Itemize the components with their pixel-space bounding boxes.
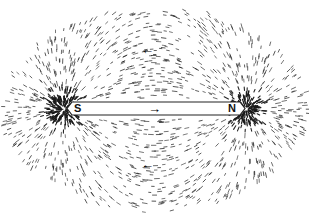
south-pole-label: S bbox=[74, 101, 81, 116]
north-pole-label: N bbox=[228, 101, 236, 116]
magnet-direction-arrow-icon: → bbox=[148, 104, 161, 114]
field-arrow-top-icon: ← bbox=[141, 45, 154, 55]
field-arrow-bottom-icon: ← bbox=[141, 160, 154, 170]
